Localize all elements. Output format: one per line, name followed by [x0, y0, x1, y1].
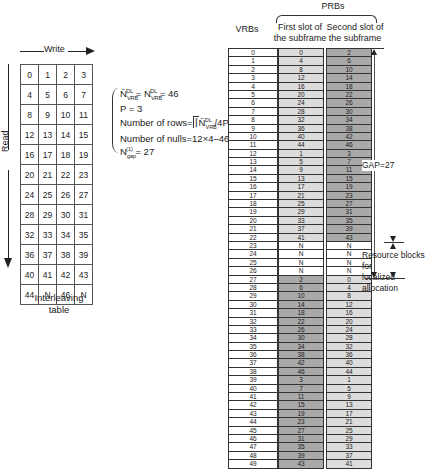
vrbs-cell: 27 [228, 276, 278, 284]
arrow-down-icon [390, 272, 396, 278]
vrbs-cell: 28 [228, 284, 278, 292]
interleaving-cell: 27 [75, 185, 93, 205]
vrbs-cell: 47 [228, 443, 278, 451]
first-slot-cell: 25 [278, 200, 324, 208]
first-slot-cell: 37 [278, 225, 324, 233]
first-slot-cell: 9 [278, 166, 324, 174]
first-slot-cell: 22 [278, 318, 324, 326]
vrbs-header: VRBs [222, 24, 272, 35]
interleaving-cell: 6 [57, 85, 75, 105]
vrbs-cell: 37 [228, 359, 278, 367]
interleaving-table: 0123456789101112131415161718192021222324… [20, 64, 93, 305]
first-slot-cell: 40 [278, 133, 324, 141]
interleaving-row: 20212223 [21, 165, 93, 185]
first-slot-header: First slot ofthe subframe [272, 22, 328, 44]
second-slot-cell: 17 [326, 410, 372, 418]
interleaving-cell: 31 [75, 205, 93, 225]
second-slot-cell: 33 [326, 443, 372, 451]
vrbs-cell: 7 [228, 108, 278, 116]
second-slot-cell: 2 [326, 48, 372, 57]
second-slot-cell: 20 [326, 318, 372, 326]
first-slot-cell: 18 [278, 309, 324, 317]
vrbs-cell: 5 [228, 91, 278, 99]
interleaving-row: 28293031 [21, 205, 93, 225]
vrbs-cell: 41 [228, 393, 278, 401]
interleaving-cell: 32 [21, 225, 39, 245]
arrow-right-icon [86, 47, 95, 55]
second-slot-cell: 19 [326, 183, 372, 191]
first-slot-cell: 13 [278, 175, 324, 183]
interleaving-cell: 24 [21, 185, 39, 205]
interleaving-cell: 18 [57, 145, 75, 165]
interleaving-cell: 34 [57, 225, 75, 245]
second-slot-cell: 27 [326, 200, 372, 208]
vrbs-cell: 26 [228, 267, 278, 275]
equation-nulls: Number of nulls=12×4–46 [120, 133, 229, 144]
second-slot-cell: 38 [326, 125, 372, 133]
second-slot-cell: 31 [326, 208, 372, 216]
second-slot-cell: 3 [326, 150, 372, 158]
first-slot-cell: 2 [278, 276, 324, 284]
interleaving-cell: 37 [39, 245, 57, 265]
vrbs-cell: 22 [228, 234, 278, 242]
interleaving-cell: 42 [57, 265, 75, 285]
interleaving-cell: 7 [75, 85, 93, 105]
first-slot-cell: 28 [278, 108, 324, 116]
second-slot-cell: 40 [326, 359, 372, 367]
vrbs-cell: 3 [228, 74, 278, 82]
vrbs-cell: 8 [228, 116, 278, 124]
write-arrow-line [68, 51, 88, 52]
first-slot-cell: 21 [278, 192, 324, 200]
interleaving-cell: 36 [21, 245, 39, 265]
second-slot-cell: 6 [326, 57, 372, 65]
first-slot-cell: 39 [278, 452, 324, 460]
vrbs-cell: 30 [228, 301, 278, 309]
vrbs-cell: 9 [228, 125, 278, 133]
second-slot-cell: 43 [326, 234, 372, 242]
first-slot-cell: 34 [278, 343, 324, 351]
second-slot-cell: 5 [326, 385, 372, 393]
vrbs-cell: 45 [228, 427, 278, 435]
vrbs-cell: 49 [228, 460, 278, 468]
interleaving-cell: 23 [75, 165, 93, 185]
first-slot-cell: 29 [278, 208, 324, 216]
interleaving-row: 36373839 [21, 245, 93, 265]
localized-bottom-tick [365, 278, 405, 279]
second-slot-cell: 29 [326, 435, 372, 443]
first-slot-cell: 31 [278, 435, 324, 443]
first-slot-cell: 0 [278, 48, 324, 57]
first-slot-cell: 8 [278, 66, 324, 74]
interleaving-cell: 3 [75, 65, 93, 85]
first-slot-cell: 23 [278, 418, 324, 426]
write-arrow-line [20, 51, 44, 52]
vrbs-cell: 34 [228, 334, 278, 342]
equation-gap: Ngap(1) = 27 [120, 146, 154, 159]
interleaving-cell: 15 [75, 125, 93, 145]
interleaving-cell: 29 [39, 205, 57, 225]
vrbs-cell: 19 [228, 208, 278, 216]
first-slot-cell: 16 [278, 83, 324, 91]
second-slot-cell: 14 [326, 74, 372, 82]
vrbs-cell: 39 [228, 376, 278, 384]
first-slot-cell: 17 [278, 183, 324, 191]
vrbs-cell: 33 [228, 326, 278, 334]
first-slot-cell: 6 [278, 284, 324, 292]
interleaving-cell: 20 [21, 165, 39, 185]
second-slot-cell: 28 [326, 334, 372, 342]
second-slot-cell: 39 [326, 225, 372, 233]
second-slot-cell: 26 [326, 99, 372, 107]
first-slot-cell: 7 [278, 385, 324, 393]
first-slot-cell: N [278, 259, 324, 267]
arrow-up-icon [390, 243, 396, 249]
read-arrow-line [8, 170, 9, 262]
interleaving-cell: 1 [39, 65, 57, 85]
equation-p: P = 3 [120, 103, 142, 114]
first-slot-cell: 14 [278, 301, 324, 309]
interleaving-cell: 4 [21, 85, 39, 105]
second-slot-cell: 46 [326, 141, 372, 149]
vrbs-cell: 29 [228, 292, 278, 300]
second-slot-cell: 18 [326, 83, 372, 91]
first-slot-column: 0481216202428323640441591317212529333741… [278, 48, 324, 469]
interleaving-row: 891011 [21, 105, 93, 125]
interleaving-cell: 11 [75, 105, 93, 125]
